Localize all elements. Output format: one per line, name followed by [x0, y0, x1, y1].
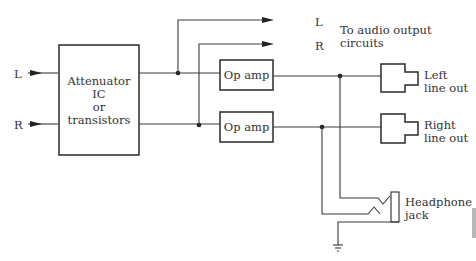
audio-out-l-label: L	[315, 15, 323, 29]
right-line-out-label-line1: Right	[424, 118, 456, 132]
input-r-label: R	[14, 118, 23, 132]
page-edge-tab	[472, 208, 476, 238]
right-line-out-jack-icon	[381, 114, 418, 143]
ground-icon	[333, 245, 343, 251]
audio-out-caption-line1: To audio output	[340, 23, 432, 37]
op-amp-left-label: Op amp	[224, 68, 270, 82]
audio-out-r-label: R	[315, 39, 324, 53]
right-line-out-label-line2: line out	[424, 131, 469, 145]
headphone-label-line2: jack	[403, 208, 430, 222]
headphone-label-line1: Headphone	[405, 195, 472, 209]
attenuator-label-line3: or	[93, 100, 106, 114]
left-audio-out-arrow-icon	[262, 17, 274, 23]
headphone-jack-icon	[391, 192, 399, 222]
left-line-out-label-line1: Left	[424, 68, 448, 82]
audio-out-caption-line2: circuits	[340, 36, 384, 50]
input-l-arrow-icon	[30, 70, 42, 76]
left-line-out-jack-icon	[381, 64, 418, 92]
ground-wire	[338, 222, 399, 245]
audio-signal-diagram: L R Attenuator IC or transistors L R To …	[0, 0, 476, 261]
right-audio-out-arrow-icon	[262, 41, 274, 47]
attenuator-label-line4: transistors	[68, 113, 131, 127]
input-r-arrow-icon	[30, 121, 42, 127]
op-amp-right-label: Op amp	[224, 120, 270, 134]
input-l-label: L	[14, 67, 22, 81]
attenuator-label-line1: Attenuator	[67, 74, 131, 88]
headphone-right-wire	[322, 127, 380, 214]
attenuator-label-line2: IC	[92, 87, 106, 101]
left-line-out-label-line2: line out	[424, 81, 469, 95]
